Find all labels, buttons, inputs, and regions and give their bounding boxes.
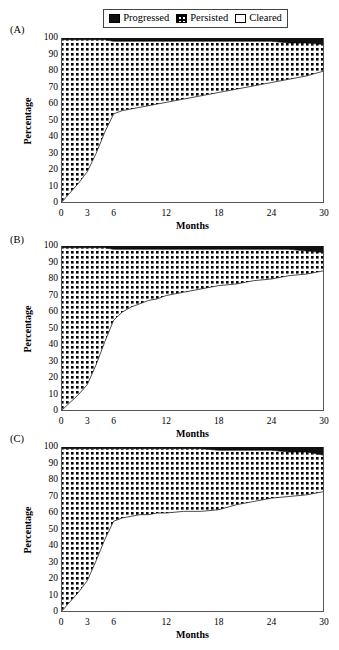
y-tick-label: 90 (36, 258, 58, 268)
x-tick-label: 3 (85, 209, 90, 219)
black-square-icon (109, 14, 120, 23)
x-tick-label: 18 (214, 209, 224, 219)
y-tick-label: 100 (36, 442, 58, 452)
panel-a-tag: (A) (10, 24, 25, 35)
plot-area: 010203040506070809010003612182430Percent… (61, 447, 324, 612)
x-tick-label: 30 (319, 417, 329, 427)
y-tick-label: 20 (36, 574, 58, 584)
y-tick-label: 0 (36, 406, 58, 416)
x-tick-label: 6 (111, 618, 116, 628)
y-tick-label: 80 (36, 475, 58, 485)
x-tick-label: 30 (319, 209, 329, 219)
x-tick-label: 18 (214, 618, 224, 628)
x-tick-label: 6 (111, 417, 116, 427)
plot-area: 010203040506070809010003612182430Percent… (61, 246, 324, 411)
legend-label-progressed: Progressed (123, 13, 169, 24)
x-tick-label: 12 (161, 618, 171, 628)
y-tick-label: 80 (36, 274, 58, 284)
y-tick-label: 40 (36, 340, 58, 350)
panel-b: (B) 010203040506070809010003612182430Per… (0, 234, 339, 434)
y-tick-label: 60 (36, 508, 58, 518)
checkered-square-icon (176, 14, 187, 23)
area-chart-svg (61, 447, 324, 612)
y-axis-label: Percentage (23, 500, 33, 560)
area-chart-svg (61, 246, 324, 411)
x-tick-label: 0 (59, 209, 64, 219)
x-tick-label: 12 (161, 417, 171, 427)
y-tick-label: 10 (36, 390, 58, 400)
legend-item-persisted: Persisted (176, 13, 228, 24)
y-tick-label: 70 (36, 291, 58, 301)
plot-area: 010203040506070809010003612182430Percent… (61, 38, 324, 203)
x-tick-label: 24 (267, 209, 277, 219)
y-tick-label: 30 (36, 357, 58, 367)
y-axis-label: Percentage (23, 299, 33, 359)
y-tick-label: 10 (36, 182, 58, 192)
x-tick-label: 0 (59, 618, 64, 628)
legend-label-cleared: Cleared (249, 13, 282, 24)
y-tick-label: 30 (36, 558, 58, 568)
panel-a: (A) 010203040506070809010003612182430Per… (0, 24, 339, 224)
y-tick-label: 100 (36, 33, 58, 43)
y-tick-label: 30 (36, 149, 58, 159)
y-tick-label: 60 (36, 307, 58, 317)
x-axis-label: Months (61, 221, 324, 231)
y-tick-label: 40 (36, 132, 58, 142)
y-tick-label: 20 (36, 373, 58, 383)
y-axis-label: Percentage (23, 91, 33, 151)
x-tick-label: 18 (214, 417, 224, 427)
y-tick-label: 90 (36, 459, 58, 469)
y-tick-label: 70 (36, 492, 58, 502)
x-tick-label: 3 (85, 417, 90, 427)
y-tick-label: 0 (36, 198, 58, 208)
x-tick-label: 6 (111, 209, 116, 219)
legend-item-cleared: Cleared (235, 13, 282, 24)
y-tick-label: 80 (36, 66, 58, 76)
y-tick-label: 70 (36, 83, 58, 93)
panel-c: (C) 010203040506070809010003612182430Per… (0, 433, 339, 643)
x-tick-label: 12 (161, 209, 171, 219)
y-tick-label: 50 (36, 116, 58, 126)
y-tick-label: 10 (36, 591, 58, 601)
y-tick-label: 90 (36, 50, 58, 60)
y-tick-label: 20 (36, 165, 58, 175)
y-tick-label: 0 (36, 607, 58, 617)
x-tick-label: 3 (85, 618, 90, 628)
panel-c-tag: (C) (10, 433, 24, 444)
x-tick-label: 24 (267, 417, 277, 427)
x-tick-label: 0 (59, 417, 64, 427)
panel-b-tag: (B) (10, 234, 24, 245)
x-tick-label: 30 (319, 618, 329, 628)
legend-label-persisted: Persisted (190, 13, 228, 24)
y-tick-label: 50 (36, 525, 58, 535)
y-tick-label: 100 (36, 241, 58, 251)
white-square-icon (235, 14, 246, 23)
area-chart-svg (61, 38, 324, 203)
x-axis-label: Months (61, 630, 324, 640)
y-tick-label: 40 (36, 541, 58, 551)
x-tick-label: 24 (267, 618, 277, 628)
y-tick-label: 60 (36, 99, 58, 109)
legend-item-progressed: Progressed (109, 13, 169, 24)
y-tick-label: 50 (36, 324, 58, 334)
